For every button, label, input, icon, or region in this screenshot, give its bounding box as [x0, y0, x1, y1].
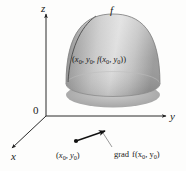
x-axis: [12, 116, 46, 148]
gradient-label: gradf(x0, y0): [114, 149, 160, 160]
gradient-leader-line: [103, 133, 112, 147]
origin-label: 0: [33, 104, 39, 116]
y-axis-label: y: [169, 110, 175, 122]
gradient-word: grad: [114, 149, 130, 159]
surface-point-close-paren: ): [123, 54, 126, 64]
gradient-close-paren: ): [157, 149, 160, 159]
base-point-label: (x0, y0): [56, 150, 80, 161]
figure-container: z y x 0 f (x0, y0, f(x0, y0)) (x0, y0) g…: [0, 0, 186, 171]
x-axis-label: x: [10, 150, 16, 162]
base-point-close-paren: ): [77, 150, 80, 160]
gradient-surface-figure: z y x 0 f (x0, y0, f(x0, y0)) (x0, y0) g…: [0, 0, 186, 171]
z-axis-label: z: [40, 2, 46, 14]
gradient-vector-group: [74, 131, 112, 147]
gradient-arrow: [76, 131, 105, 141]
